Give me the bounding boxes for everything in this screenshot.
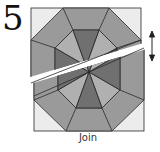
- quilt-block-diagram: [0, 0, 160, 152]
- step-caption: Join: [0, 132, 160, 143]
- join-arrow-icon: [150, 31, 155, 61]
